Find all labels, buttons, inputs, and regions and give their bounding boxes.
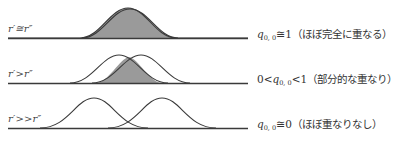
row-3-note: （ほぼ重なりなし） bbox=[292, 118, 382, 130]
row-3-curve-a bbox=[40, 98, 148, 128]
row-3-q-symbol: q bbox=[257, 118, 264, 130]
row-1-graphic bbox=[8, 8, 248, 39]
row-1-relation: ≅1 bbox=[276, 28, 292, 40]
row-1-q-subscript: 0, 0 bbox=[264, 34, 276, 42]
row-2-relation: <1 bbox=[292, 73, 307, 85]
row-1-result-label: q0, 0≅1（ほぼ完全に重なる） bbox=[257, 26, 392, 42]
row-3-curve-b bbox=[108, 98, 216, 128]
row-3-condition-label: r′>>r″ bbox=[8, 113, 42, 124]
row-2-note: （部分的な重なり） bbox=[307, 73, 397, 85]
row-1-note: （ほぼ完全に重なる） bbox=[292, 28, 392, 40]
row-3-result-label: q0, 0≅0（ほぼ重なりなし） bbox=[257, 116, 382, 132]
row-2-condition-label: r′>r″ bbox=[8, 68, 33, 79]
row-1-q-symbol: q bbox=[257, 28, 264, 40]
row-3-graphic bbox=[8, 98, 248, 129]
row-2-result-label: 0<q0, 0<1（部分的な重なり） bbox=[257, 71, 397, 87]
row-3-q-subscript: 0, 0 bbox=[264, 124, 276, 132]
row-3-relation: ≅0 bbox=[276, 118, 292, 130]
row-2-prefix: 0< bbox=[257, 73, 272, 85]
row-1-condition-label: r′≅r″ bbox=[8, 23, 33, 34]
row-2-graphic bbox=[8, 55, 248, 84]
row-2-q-subscript: 0, 0 bbox=[279, 79, 291, 87]
